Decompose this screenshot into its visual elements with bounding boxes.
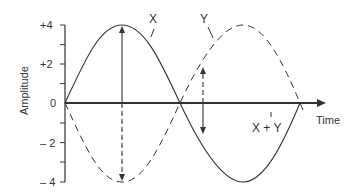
series-x-leader (151, 29, 154, 37)
series-y-label: Y (200, 12, 208, 26)
arrow-up-icon (200, 67, 206, 74)
tick-label-p2: +2 (40, 58, 53, 70)
arrow-up-icon (119, 26, 125, 33)
tick-label-0: 0 (50, 97, 56, 109)
sum-series-label: X + Y (252, 121, 281, 135)
tick-label-m2: – 2 (40, 137, 55, 149)
series-y-leader (208, 27, 213, 38)
x-axis-label: Time (316, 114, 340, 126)
y-ticks (60, 25, 65, 182)
tick-label-m4: – 4 (40, 176, 55, 188)
arrow-down-icon (119, 174, 125, 181)
wave-diagram: +4 +2 0 – 2 – 4 Amplitude Time X Y X + Y (0, 0, 356, 194)
x-axis-arrowhead-icon (317, 99, 326, 107)
series-x-label: X (149, 12, 157, 26)
y-axis-label: Amplitude (18, 66, 30, 115)
tick-label-p4: +4 (40, 19, 53, 31)
arrow-down-icon (200, 127, 206, 134)
